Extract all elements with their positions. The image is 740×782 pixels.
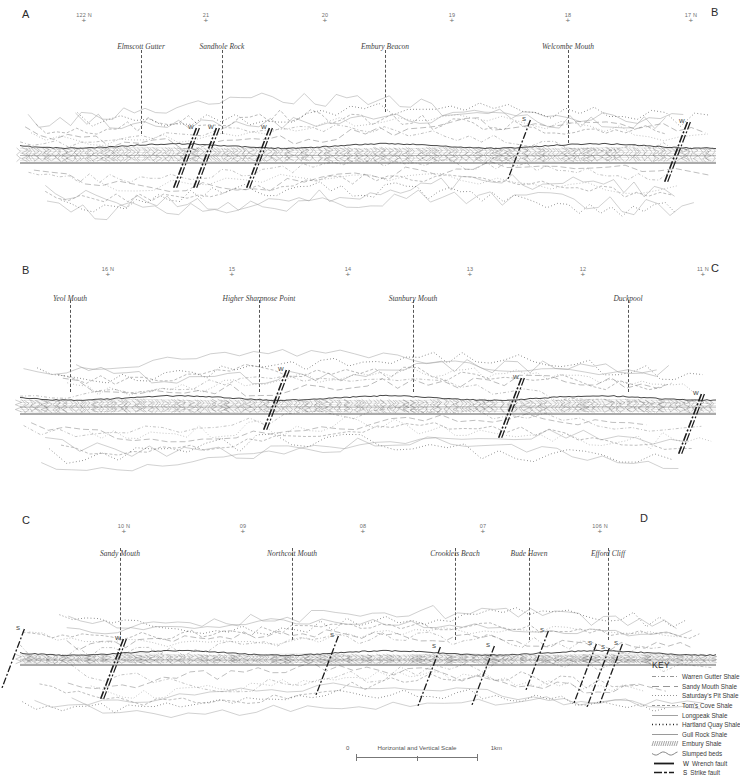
legend-item-label: Hartland Quay Shale bbox=[682, 721, 740, 728]
legend-swatch-icon bbox=[652, 691, 678, 700]
legend-item-strike-fault: SStrike fault bbox=[652, 768, 737, 778]
legend-key: KEY Warren Gutter ShaleSandy Mouth Shale… bbox=[652, 660, 737, 778]
legend-swatch-icon bbox=[652, 711, 678, 720]
legend-item-tom-s-cove-shale: Tom's Cove Shale bbox=[652, 701, 737, 711]
legend-item-label: Saturday's Pit Shale bbox=[682, 692, 739, 699]
legend-swatch-icon bbox=[652, 682, 678, 691]
legend-item-label: Longpeak Shale bbox=[682, 712, 728, 719]
legend-item-warren-gutter-shale: Warren Gutter Shale bbox=[652, 672, 737, 682]
legend-item-hartland-quay-shale: Hartland Quay Shale bbox=[652, 720, 737, 730]
legend-item-label: Gull Rock Shale bbox=[682, 731, 727, 738]
scale-start-label: 0 bbox=[346, 745, 349, 751]
legend-swatch-icon bbox=[652, 739, 678, 748]
legend-item-label: Strike fault bbox=[690, 769, 720, 776]
legend-fault-letter: S bbox=[683, 769, 687, 776]
legend-item-wrench-fault: WWrench fault bbox=[652, 758, 737, 768]
legend-swatch-icon bbox=[652, 672, 678, 681]
scale-bar-rule: 0 1km bbox=[352, 754, 482, 762]
legend-item-label: Sandy Mouth Shale bbox=[682, 683, 737, 690]
legend-swatch-icon bbox=[652, 768, 678, 777]
scale-bar-label: Horizontal and Vertical Scale bbox=[352, 744, 482, 751]
legend-swatch-icon bbox=[652, 749, 678, 758]
legend-swatch-icon bbox=[652, 701, 678, 710]
legend-item-embury-shale: Embury Shale bbox=[652, 739, 737, 749]
legend-item-label: Slumped beds bbox=[682, 750, 722, 757]
scale-bar: Horizontal and Vertical Scale 0 1km bbox=[352, 744, 482, 762]
legend-item-label: Tom's Cove Shale bbox=[682, 702, 733, 709]
legend-item-label: Embury Shale bbox=[682, 740, 722, 747]
legend-item-label: Warren Gutter Shale bbox=[682, 673, 740, 680]
legend-item-saturday-s-pit-shale: Saturday's Pit Shale bbox=[652, 691, 737, 701]
legend-swatch-icon bbox=[652, 759, 678, 768]
legend-item-sandy-mouth-shale: Sandy Mouth Shale bbox=[652, 682, 737, 692]
legend-swatch-icon bbox=[652, 720, 678, 729]
legend-item-longpeak-shale: Longpeak Shale bbox=[652, 710, 737, 720]
scale-end-label: 1km bbox=[491, 745, 502, 751]
legend-fault-letter: W bbox=[683, 760, 689, 767]
legend-swatch-icon bbox=[652, 730, 678, 739]
legend-item-gull-rock-shale: Gull Rock Shale bbox=[652, 730, 737, 740]
legend-title: KEY bbox=[652, 660, 737, 670]
legend-item-slumped-beds: Slumped beds bbox=[652, 749, 737, 759]
legend-item-label: Wrench fault bbox=[692, 760, 727, 767]
